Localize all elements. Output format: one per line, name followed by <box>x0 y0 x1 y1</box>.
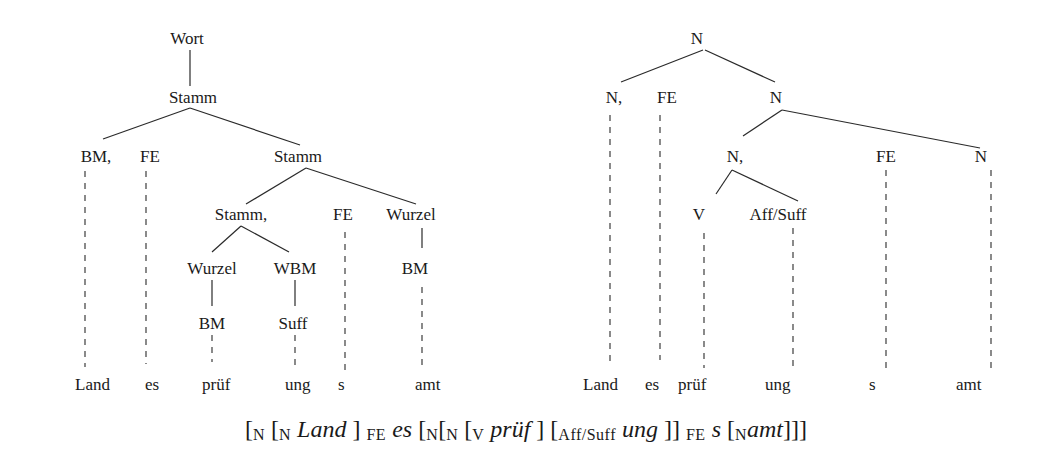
formula-bracket: ]] <box>658 416 686 442</box>
tree-node-label: WBM <box>274 259 317 278</box>
tree-leaf-morpheme: Land <box>75 375 110 394</box>
formula-bracket: [ <box>265 416 279 442</box>
tree-leaf-morpheme: amt <box>956 375 982 394</box>
formula-bracket: ] <box>346 416 366 442</box>
tree-leaf-morpheme: amt <box>415 375 441 394</box>
formula-category-subscript: FE <box>686 426 706 443</box>
formula-bracket: ]]] <box>783 416 807 442</box>
formula-category-subscript: N <box>253 426 265 443</box>
tree-node-label: N <box>691 29 703 48</box>
right-tree-n-categories: NN,FENN,FENVAff/SuffLandesprüfungsamt <box>583 29 991 394</box>
tree-node-label: FE <box>140 147 160 166</box>
formula-category-subscript: N <box>446 426 458 443</box>
formula-bracket: [ <box>721 416 735 442</box>
tree-branch-line <box>732 170 798 201</box>
formula-morpheme: Land <box>291 416 346 442</box>
tree-node-label: BM <box>402 259 428 278</box>
tree-leaf-morpheme: prüf <box>678 375 707 394</box>
morphology-tree-diagram: WortStammBM,FEStammStamm,FEWurzelWurzelW… <box>0 0 1052 457</box>
tree-leaf-morpheme: prüf <box>202 375 231 394</box>
tree-node-label: Aff/Suff <box>750 205 807 224</box>
tree-node-label: Wurzel <box>187 259 237 278</box>
tree-leaf-morpheme: ung <box>765 375 791 394</box>
tree-leaf-morpheme: Land <box>583 375 618 394</box>
formula-morpheme: ung <box>616 416 658 442</box>
formula-category-subscript: N <box>735 426 747 443</box>
tree-node-label: N <box>770 88 782 107</box>
formula-bracket: [ <box>245 416 253 442</box>
tree-leaf-morpheme: es <box>145 375 159 394</box>
tree-leaf-morpheme: s <box>869 375 876 394</box>
tree-branch-line <box>743 110 782 136</box>
tree-node-label: BM <box>199 314 225 333</box>
formula-morpheme: amt <box>747 416 783 442</box>
tree-branch-line <box>190 108 300 145</box>
formula-morpheme: s <box>706 416 721 442</box>
tree-branch-line <box>716 170 732 194</box>
tree-branch-line <box>103 108 190 139</box>
tree-node-label: N <box>975 147 987 166</box>
tree-branch-line <box>621 50 703 82</box>
tree-branch-line <box>306 168 416 204</box>
formula-category-subscript: Aff/Suff <box>558 426 616 443</box>
tree-branch-line <box>705 50 775 82</box>
tree-node-label: FE <box>333 205 353 224</box>
tree-branch-line <box>246 168 306 204</box>
formula-category-subscript: N <box>279 426 291 443</box>
tree-node-label: BM, <box>81 147 112 166</box>
tree-node-label: FE <box>876 147 896 166</box>
tree-branch-line <box>782 110 980 148</box>
formula-bracket: [ <box>458 416 472 442</box>
tree-node-label: Wort <box>170 29 204 48</box>
formula-category-subscript: FE <box>366 426 386 443</box>
tree-leaf-morpheme: ung <box>285 375 311 394</box>
left-tree-wort-stamm: WortStammBM,FEStammStamm,FEWurzelWurzelW… <box>75 29 441 394</box>
formula-category-subscript: N <box>426 426 438 443</box>
tree-node-label: FE <box>657 88 677 107</box>
tree-leaf-morpheme: s <box>338 375 345 394</box>
tree-node-label: N, <box>727 147 744 166</box>
formula-bracket: [ <box>412 416 426 442</box>
formula-morpheme: es <box>386 416 412 442</box>
tree-node-label: N, <box>606 88 623 107</box>
tree-node-label: Suff <box>279 314 308 333</box>
bracket-notation-formula: [N [N Land ] FE es [N[N [V prüf ] [Aff/S… <box>0 417 1052 443</box>
tree-branch-line <box>241 226 289 252</box>
tree-node-label: Stamm <box>274 147 322 166</box>
tree-node-label: V <box>693 205 706 224</box>
tree-branch-line <box>212 226 241 252</box>
tree-node-label: Stamm, <box>215 205 267 224</box>
tree-node-label: Stamm <box>169 88 217 107</box>
formula-bracket: [ <box>438 416 446 442</box>
tree-node-label: Wurzel <box>386 205 436 224</box>
formula-bracket: ] [ <box>530 416 558 442</box>
tree-leaf-morpheme: es <box>645 375 659 394</box>
formula-morpheme: prüf <box>484 416 530 442</box>
formula-category-subscript: V <box>472 426 484 443</box>
